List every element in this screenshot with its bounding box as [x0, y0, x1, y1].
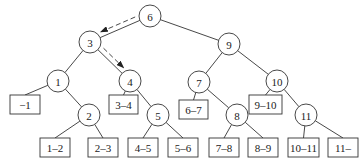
tree-node: 4 [119, 70, 141, 92]
tree-edge [160, 20, 218, 41]
interval-leaf-box: 2–3 [88, 138, 118, 157]
node-label: 5 [155, 110, 161, 122]
leaf-label: 5–6 [175, 142, 192, 154]
node-label: 8 [234, 110, 240, 122]
interval-leaf-box: 7–8 [209, 138, 239, 157]
node-label: 9 [226, 39, 232, 51]
leaf-label: 1–2 [47, 142, 64, 154]
tree-edge [207, 89, 228, 108]
tree-node: 2 [78, 104, 100, 126]
node-label: 11 [301, 110, 312, 122]
node-label: 4 [127, 76, 133, 88]
tree-node: 5 [147, 104, 169, 126]
node-label: 3 [87, 37, 93, 49]
tree-node: 11 [295, 104, 317, 126]
leaf-label: 9–10 [255, 99, 278, 111]
interval-leaf-box: 10–11 [288, 138, 319, 157]
leaf-label: 11– [335, 142, 352, 154]
interval-leaf-box: 4–5 [128, 138, 158, 157]
interval-leaf-box: 5–6 [168, 138, 198, 157]
tree-edge [55, 121, 80, 138]
tree-edge [194, 93, 196, 100]
leaf-label: 6–7 [185, 104, 202, 116]
tree-edge [315, 121, 343, 138]
interval-leaf-box: 8–9 [248, 138, 278, 157]
tree-node: 9 [218, 33, 240, 55]
tree-edge [224, 125, 232, 138]
interval-leaf-box: −1 [10, 95, 40, 114]
tree-edge [137, 89, 151, 106]
tree-edge [25, 85, 48, 95]
tree-edge [100, 20, 140, 37]
leaf-label: 4–5 [135, 142, 152, 154]
tree-node: 7 [188, 71, 210, 93]
tree-edge [124, 91, 126, 95]
tree-node: 8 [226, 104, 248, 126]
tree-edge [65, 51, 83, 73]
leaf-label: −1 [19, 99, 31, 111]
node-label: 2 [86, 110, 92, 122]
node-label: 10 [272, 76, 284, 88]
tree-edge [98, 50, 122, 74]
node-label: 7 [196, 77, 202, 89]
tree-edge [245, 122, 263, 138]
leaf-label: 2–3 [95, 142, 112, 154]
interval-leaf-box: 3–4 [109, 95, 138, 114]
interval-leaf-box: 11– [328, 138, 358, 157]
tree-canvas: −13–46–79–101–22–34–55–67–88–910–1111– 6… [0, 0, 364, 168]
tree-edge [206, 53, 222, 74]
interval-leaf-box: 9–10 [249, 95, 282, 114]
leaf-label: 10–11 [290, 142, 317, 154]
interval-leaf-box: 6–7 [179, 100, 208, 119]
tree-edge [166, 122, 183, 138]
node-label: 6 [147, 11, 153, 23]
interval-leaf-box: 1–2 [40, 138, 70, 157]
leaf-label: 8–9 [255, 142, 272, 154]
tree-node: 1 [47, 70, 69, 92]
tree-node: 3 [79, 31, 101, 53]
leaf-label: 7–8 [216, 142, 233, 154]
leaf-label: 3–4 [115, 99, 132, 111]
tree-edge [95, 124, 103, 138]
tree-edge [65, 89, 81, 107]
tree-edge [304, 126, 305, 138]
tree-node: 10 [266, 70, 288, 92]
tree-edge [266, 89, 271, 95]
tree-node: 6 [139, 5, 161, 27]
tree-edge [284, 89, 299, 106]
tree-edge [143, 124, 152, 138]
tree-diagram: −13–46–79–101–22–34–55–67–88–910–1111– 6… [0, 0, 364, 168]
node-label: 1 [55, 76, 61, 88]
tree-edge [238, 51, 269, 75]
tree-edges [25, 20, 343, 138]
